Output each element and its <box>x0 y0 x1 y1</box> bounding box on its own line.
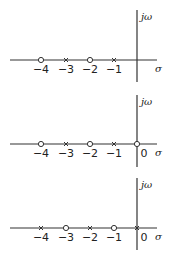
pole-zero-plot-2: −4 −3 −2 −1 0 jω σ <box>0 84 172 168</box>
tick-label: 0 <box>141 148 148 159</box>
zero-marker <box>63 225 68 230</box>
zero-marker <box>134 141 139 146</box>
pole-zero-plot-3: −4 −3 −2 −1 0 jω σ <box>0 168 172 252</box>
imaginary-axis-label: jω <box>141 12 152 22</box>
zero-marker <box>87 57 92 62</box>
zero-marker <box>38 57 43 62</box>
tick-label: −3 <box>58 148 74 159</box>
tick-label: −1 <box>106 148 122 159</box>
tick-label: −1 <box>106 64 122 75</box>
zero-marker <box>38 141 43 146</box>
pole-zero-plot-1: −4 −3 −2 −1 jω σ <box>0 0 172 84</box>
imaginary-axis-label: jω <box>141 180 152 190</box>
tick-label: −2 <box>82 148 98 159</box>
tick-label: −3 <box>58 64 74 75</box>
tick-label: −3 <box>58 232 74 243</box>
real-axis-label: σ <box>155 232 162 242</box>
real-axis-label: σ <box>155 148 162 158</box>
tick-label: −2 <box>82 232 98 243</box>
zero-marker <box>87 141 92 146</box>
tick-label: −2 <box>82 64 98 75</box>
tick-label: −4 <box>33 148 49 159</box>
zero-marker <box>111 225 116 230</box>
tick-label: −4 <box>33 232 49 243</box>
tick-label: 0 <box>141 232 148 243</box>
imaginary-axis-label: jω <box>141 97 152 107</box>
tick-label: −4 <box>33 64 49 75</box>
real-axis-label: σ <box>155 64 162 74</box>
tick-label: −1 <box>106 232 122 243</box>
